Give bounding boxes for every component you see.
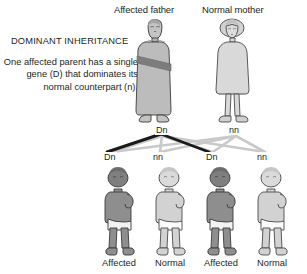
adult-male-figure — [136, 19, 171, 122]
parent-genotype-father: Dn — [155, 125, 169, 135]
child-figure — [258, 167, 287, 255]
child-genotype: Dn — [205, 152, 219, 162]
child-genotype: nn — [152, 152, 164, 162]
inheritance-diagram: Affected father Normal mother DOMINANT I… — [0, 0, 307, 274]
adult-female-figure — [216, 19, 249, 122]
child-genotype: nn — [256, 152, 268, 162]
child-figure — [207, 167, 236, 255]
child-figure — [105, 167, 134, 255]
figures-layer — [0, 0, 307, 274]
child-genotype: Dn — [103, 152, 117, 162]
parent-genotype-mother: nn — [228, 125, 240, 135]
child-figure — [156, 167, 185, 255]
